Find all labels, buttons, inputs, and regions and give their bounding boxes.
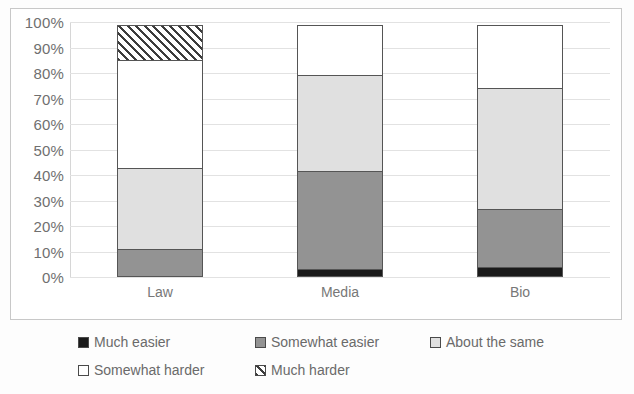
y-axis-tick-labels: 100%90%80%70%60%50%40%30%20%10%0% — [0, 22, 64, 277]
y-axis-tick-50: 50% — [8, 141, 64, 158]
legend-item-much-easier[interactable]: Much easier — [78, 334, 170, 350]
y-axis-tick-30: 30% — [8, 192, 64, 209]
y-axis-tick-100: 100% — [8, 14, 64, 31]
legend-swatch-much-harder-icon — [255, 365, 266, 376]
bar-segment-media-about-the-same[interactable] — [297, 75, 383, 172]
bar-segment-bio-somewhat-easier[interactable] — [477, 209, 563, 268]
bar-segment-bio-much-easier[interactable] — [477, 267, 563, 277]
legend-swatch-much-easier-icon — [78, 337, 89, 348]
bar-segment-bio-somewhat-harder[interactable] — [477, 25, 563, 89]
bar-law[interactable] — [117, 25, 203, 277]
y-axis-tick-80: 80% — [8, 65, 64, 82]
legend-item-somewhat-harder[interactable]: Somewhat harder — [78, 362, 205, 378]
legend-swatch-somewhat-easier-icon — [255, 337, 266, 348]
legend-swatch-somewhat-harder-icon — [78, 365, 89, 376]
gridline-0 — [70, 277, 610, 278]
bar-segment-media-much-easier[interactable] — [297, 269, 383, 277]
bar-segment-media-somewhat-harder[interactable] — [297, 25, 383, 76]
legend-label-about-same: About the same — [446, 334, 544, 350]
y-axis-tick-40: 40% — [8, 167, 64, 184]
y-axis-tick-0: 0% — [8, 269, 64, 286]
bar-media[interactable] — [297, 25, 383, 277]
x-axis-category-labels: LawMediaBio — [70, 284, 610, 304]
x-axis-label-law: Law — [100, 284, 220, 300]
bar-segment-law-much-harder[interactable] — [117, 25, 203, 61]
legend-label-somewhat-easier: Somewhat easier — [271, 334, 379, 350]
x-axis-label-bio: Bio — [460, 284, 580, 300]
bar-segment-law-somewhat-easier[interactable] — [117, 249, 203, 277]
y-axis-tick-10: 10% — [8, 243, 64, 260]
y-axis-tick-20: 20% — [8, 218, 64, 235]
legend-label-much-harder: Much harder — [271, 362, 350, 378]
legend-item-much-harder[interactable]: Much harder — [255, 362, 350, 378]
x-axis-label-media: Media — [280, 284, 400, 300]
y-axis-tick-90: 90% — [8, 39, 64, 56]
y-axis-tick-60: 60% — [8, 116, 64, 133]
chart-legend: Much easierSomewhat easierAbout the same… — [10, 330, 622, 386]
bar-bio[interactable] — [477, 25, 563, 277]
bar-segment-law-somewhat-harder[interactable] — [117, 60, 203, 170]
legend-swatch-about-same-icon — [430, 337, 441, 348]
bar-segment-bio-about-the-same[interactable] — [477, 88, 563, 210]
stacked-bar-chart: 100%90%80%70%60%50%40%30%20%10%0% LawMed… — [0, 0, 634, 394]
bar-segment-media-somewhat-easier[interactable] — [297, 171, 383, 270]
legend-label-much-easier: Much easier — [94, 334, 170, 350]
legend-item-about-same[interactable]: About the same — [430, 334, 544, 350]
legend-item-somewhat-easier[interactable]: Somewhat easier — [255, 334, 379, 350]
bar-segment-law-about-the-same[interactable] — [117, 168, 203, 250]
gridline-100 — [70, 22, 610, 23]
legend-label-somewhat-harder: Somewhat harder — [94, 362, 205, 378]
plot-area — [70, 22, 610, 277]
y-axis-tick-70: 70% — [8, 90, 64, 107]
